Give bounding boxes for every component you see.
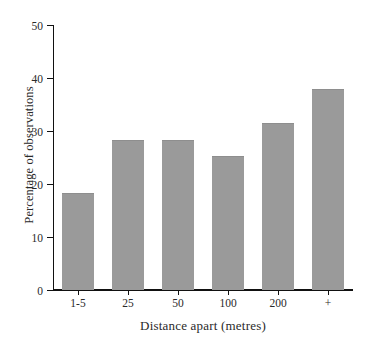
y-axis-tick: 20 bbox=[47, 184, 53, 185]
y-axis-title: Percentage of observations bbox=[18, 10, 40, 300]
x-axis-tick bbox=[178, 290, 179, 295]
y-axis-tick-label: 10 bbox=[32, 232, 44, 244]
y-axis-tick-label: 50 bbox=[32, 20, 44, 32]
bar bbox=[212, 156, 244, 290]
x-axis-tick bbox=[278, 290, 279, 295]
x-axis-category-label: 50 bbox=[172, 297, 184, 309]
bar bbox=[162, 140, 194, 290]
plot-area: 01020304050 1-52550100200+ bbox=[53, 25, 353, 290]
bar bbox=[262, 123, 294, 290]
y-axis-line bbox=[53, 25, 54, 290]
y-axis-tick: 50 bbox=[47, 25, 53, 26]
y-axis-tick: 40 bbox=[47, 78, 53, 79]
x-axis-title: Distance apart (metres) bbox=[53, 318, 353, 334]
y-axis-tick: 0 bbox=[47, 290, 53, 291]
x-axis-category-label: 1-5 bbox=[70, 297, 85, 309]
x-axis-category-label: 200 bbox=[269, 297, 286, 309]
y-axis-tick-label: 30 bbox=[32, 126, 44, 138]
y-axis-tick: 30 bbox=[47, 131, 53, 132]
x-axis-tick bbox=[228, 290, 229, 295]
bar bbox=[112, 140, 144, 290]
y-axis-tick-label: 40 bbox=[32, 73, 44, 85]
x-axis-category-label: + bbox=[325, 297, 332, 309]
x-axis-category-label: 25 bbox=[122, 297, 134, 309]
bar bbox=[312, 89, 344, 290]
x-axis-category-label: 100 bbox=[219, 297, 236, 309]
y-axis-tick-label: 0 bbox=[37, 285, 43, 297]
y-axis-tick-label: 20 bbox=[32, 179, 44, 191]
bar bbox=[62, 193, 94, 290]
x-axis-line bbox=[53, 289, 353, 291]
y-axis-tick: 10 bbox=[47, 237, 53, 238]
x-axis-tick bbox=[78, 290, 79, 295]
x-axis-tick bbox=[128, 290, 129, 295]
bar-chart-figure: Percentage of observations 01020304050 1… bbox=[0, 0, 365, 349]
x-axis-tick bbox=[328, 290, 329, 295]
